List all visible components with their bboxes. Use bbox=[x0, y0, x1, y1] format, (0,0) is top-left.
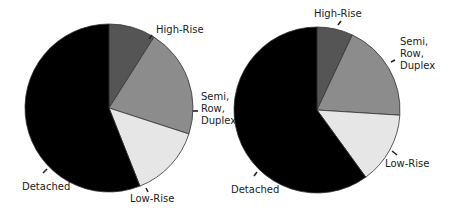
high-rise-leader bbox=[338, 21, 341, 25]
label-semi: Semi, Row, Duplex bbox=[201, 91, 236, 126]
pie-charts: High-Rise Semi, Row, Duplex Low-Rise Det… bbox=[0, 0, 451, 211]
label-semi: Semi, Row, Duplex bbox=[400, 36, 435, 71]
label-high-rise: High-Rise bbox=[156, 24, 204, 35]
label-high-rise: High-Rise bbox=[314, 8, 362, 19]
pie-chart-left bbox=[25, 24, 193, 192]
semi-leader bbox=[391, 60, 395, 62]
label-low-rise: Low-Rise bbox=[130, 193, 174, 204]
low-rise-leader bbox=[392, 151, 397, 155]
label-detached: Detached bbox=[22, 181, 70, 192]
label-detached: Detached bbox=[231, 184, 279, 195]
low-rise-leader bbox=[146, 188, 148, 192]
detached-leader bbox=[43, 169, 47, 173]
label-low-rise: Low-Rise bbox=[385, 158, 429, 169]
detached-leader bbox=[254, 172, 257, 176]
pie-chart-right bbox=[234, 27, 400, 193]
